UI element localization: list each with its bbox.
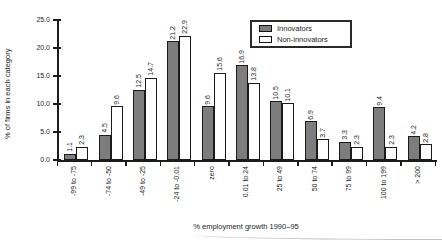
x-category-cell: 0.01 to 24 — [229, 166, 263, 220]
bar-value-label: 2.3 — [78, 135, 86, 145]
x-category-label: zero — [208, 166, 216, 180]
bar-value-label: 2.8 — [422, 133, 430, 143]
bar-column: 16.9 — [236, 20, 248, 160]
y-tick-label: 20.0 — [26, 44, 50, 51]
bar-non-innovators — [317, 139, 329, 160]
plot-area: 1.12.34.59.612.514.721.222.99.615.616.91… — [57, 20, 437, 162]
bar-column: 2.3 — [76, 20, 88, 160]
x-category-cell: zero — [194, 166, 228, 220]
bar-value-label: 22.9 — [181, 20, 189, 34]
bar-innovators — [305, 121, 317, 160]
bar-non-innovators — [214, 73, 226, 160]
legend: Innovators Non-innovators — [250, 20, 352, 48]
bar-column: 1.1 — [64, 20, 76, 160]
bar-column: 12.5 — [133, 20, 145, 160]
bar-value-label: 9.4 — [376, 96, 384, 106]
legend-swatch-innovators — [259, 25, 272, 32]
bar-column: 22.9 — [179, 20, 191, 160]
bar-innovators — [167, 41, 179, 160]
x-category-label: -49 to -25 — [139, 166, 147, 196]
bar-column: 2.3 — [385, 20, 397, 160]
bar-column: 9.6 — [202, 20, 214, 160]
y-tick-label: 25.0 — [26, 16, 50, 23]
bar-group: 4.59.6 — [93, 20, 127, 160]
bar-innovators — [373, 107, 385, 160]
bar-value-label: 6.9 — [307, 110, 315, 120]
bar-innovators — [339, 142, 351, 160]
bar-value-label: 2.3 — [353, 135, 361, 145]
x-category-cell: 50 to 74 — [298, 166, 332, 220]
bar-value-label: 16.9 — [238, 50, 246, 64]
bar-value-label: 9.6 — [113, 95, 121, 105]
bar-value-label: 3.7 — [319, 128, 327, 138]
bar-value-label: 2.3 — [388, 135, 396, 145]
bar-innovators — [133, 90, 145, 160]
bar-innovators — [64, 154, 76, 160]
bar-group: 4.22.8 — [403, 20, 437, 160]
y-axis-title: % of firms in each category — [4, 20, 12, 168]
bar-non-innovators — [76, 147, 88, 160]
x-category-cell: -99 to -75 — [57, 166, 91, 220]
bar-column: 14.7 — [145, 20, 157, 160]
bar-non-innovators — [351, 147, 363, 160]
bar-column: 2.8 — [420, 20, 432, 160]
y-tick-label: 5.0 — [26, 128, 50, 135]
bar-value-label: 3.3 — [341, 130, 349, 140]
bar-column: 21.2 — [167, 20, 179, 160]
bar-value-label: 4.5 — [101, 123, 109, 133]
x-category-label: 25 to 49 — [276, 166, 284, 191]
bar-value-label: 12.5 — [135, 74, 143, 88]
bar-column: 9.6 — [111, 20, 123, 160]
x-category-label: 75 to 99 — [345, 166, 353, 191]
legend-item-innovators: Innovators — [259, 24, 350, 33]
bar-innovators — [408, 136, 420, 160]
bar-value-label: 4.2 — [410, 125, 418, 135]
bar-column: 2.3 — [351, 20, 363, 160]
x-axis-category-labels: -99 to -75-74 to -50-49 to -25-24 to -0.… — [57, 166, 435, 220]
bar-value-label: 10.5 — [272, 86, 280, 100]
bar-non-innovators — [248, 83, 260, 160]
bar-non-innovators — [385, 147, 397, 160]
legend-label: Innovators — [277, 24, 312, 33]
bar-non-innovators — [420, 144, 432, 160]
x-category-cell: 100 to 199 — [366, 166, 400, 220]
bar-non-innovators — [145, 78, 157, 160]
x-category-cell: -24 to -0.01 — [160, 166, 194, 220]
bar-non-innovators — [282, 103, 294, 160]
legend-label: Non-innovators — [277, 35, 328, 44]
bar-value-label: 15.6 — [216, 57, 224, 71]
bar-group: 1.12.3 — [59, 20, 93, 160]
x-category-cell: 75 to 99 — [332, 166, 366, 220]
x-category-label: > 200 — [414, 166, 422, 184]
bar-value-label: 10.1 — [284, 88, 292, 102]
bar-non-innovators — [111, 106, 123, 160]
bar-chart-figure: % of firms in each category 0.05.010.015… — [0, 0, 442, 243]
y-tick-label: 0.0 — [26, 156, 50, 163]
bar-group: 21.222.9 — [162, 20, 196, 160]
x-axis-title: % employment growth 1990–95 — [57, 222, 435, 231]
bar-column: 4.2 — [408, 20, 420, 160]
bar-groups: 1.12.34.59.612.514.721.222.99.615.616.91… — [59, 20, 437, 160]
x-category-label: 50 to 74 — [311, 166, 319, 191]
bar-value-label: 1.1 — [66, 142, 74, 152]
bar-column: 15.6 — [214, 20, 226, 160]
x-category-cell: -74 to -50 — [91, 166, 125, 220]
bar-group: 9.42.3 — [368, 20, 402, 160]
x-category-label: -24 to -0.01 — [173, 166, 181, 202]
bar-column: 4.5 — [99, 20, 111, 160]
x-category-cell: -49 to -25 — [126, 166, 160, 220]
bar-value-label: 21.2 — [169, 26, 177, 40]
x-category-cell: > 200 — [401, 166, 435, 220]
x-category-label: -74 to -50 — [105, 166, 113, 196]
x-category-label: 100 to 199 — [380, 166, 388, 199]
bar-non-innovators — [179, 36, 191, 160]
bar-innovators — [99, 135, 111, 160]
y-tick-label: 10.0 — [26, 100, 50, 107]
bar-group: 12.514.7 — [128, 20, 162, 160]
bar-innovators — [236, 65, 248, 160]
legend-item-non-innovators: Non-innovators — [259, 35, 350, 44]
y-tick-label: 15.0 — [26, 72, 50, 79]
page-artifact-line — [196, 235, 442, 240]
bar-group: 9.615.6 — [196, 20, 230, 160]
legend-swatch-non-innovators — [259, 36, 272, 43]
